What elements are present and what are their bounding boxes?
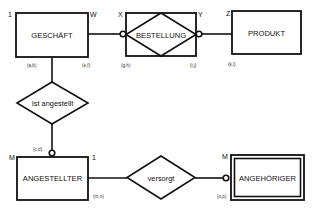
entity-bestellung[interactable]: BESTELLUNG xyxy=(126,13,196,56)
min-max-label: (o,p) xyxy=(217,194,227,199)
entity-angestellter[interactable]: ANGESTELLTER xyxy=(17,157,88,200)
entity-produkt[interactable]: PRODUKT xyxy=(232,11,301,54)
cardinality-label: Z xyxy=(226,10,231,17)
optional-circle-icon xyxy=(196,31,202,37)
min-max-label: (i,j) xyxy=(190,63,197,68)
entity-geschaeft[interactable]: GESCHÄFT xyxy=(16,13,88,57)
relationship-versorgt-label: versorgt xyxy=(148,174,175,183)
optional-circle-icon xyxy=(120,31,126,37)
cardinality-label: W xyxy=(90,11,97,18)
relationship-ist-angestellt-label: Ist angestellt xyxy=(32,99,74,108)
min-max-label: (k,l) xyxy=(228,62,236,67)
cardinality-label: 1 xyxy=(92,154,96,161)
entity-bestellung-label: BESTELLUNG xyxy=(136,31,186,40)
optional-circle-icon xyxy=(49,150,55,156)
entity-geschaeft-label: GESCHÄFT xyxy=(31,31,73,40)
cardinality-label: M xyxy=(9,154,15,161)
relationship-versorgt[interactable]: versorgt xyxy=(127,156,195,199)
cardinality-label: X xyxy=(118,11,123,18)
entity-angestellter-label: ANGESTELLTER xyxy=(23,174,83,183)
min-max-label: (c,d) xyxy=(33,147,43,152)
entity-angehoeriger-label: ANGEHÖRIGER xyxy=(239,174,296,183)
cardinality-label: 1 xyxy=(8,11,12,18)
cardinality-label: M xyxy=(222,153,228,160)
min-max-label: (e,f) xyxy=(82,63,91,68)
min-max-label: (g,h) xyxy=(121,63,131,68)
er-diagram: GESCHÄFT BESTELLUNG PRODUKT Ist angestel… xyxy=(0,0,312,209)
optional-circle-icon xyxy=(223,175,229,181)
entity-angehoeriger[interactable]: ANGEHÖRIGER xyxy=(231,155,304,200)
min-max-label: (m,n) xyxy=(93,194,104,199)
cardinality-label: Y xyxy=(198,11,203,18)
relationship-ist-angestellt[interactable]: Ist angestellt xyxy=(17,82,88,124)
min-max-label: (a,b) xyxy=(27,63,37,68)
entity-produkt-label: PRODUKT xyxy=(248,29,285,38)
